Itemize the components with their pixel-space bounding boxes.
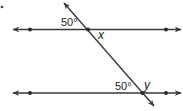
bottom-variable-label: y [143,78,151,92]
top-line-left-point [28,28,32,32]
bottom-angle-label: 50° [115,80,132,92]
parallel-lines-diagram: 50° x 50° y [0,0,183,111]
top-variable-label: x [97,28,105,42]
top-line-right-point [164,28,168,32]
bottom-line-left-point [28,91,32,95]
bottom-line [13,91,181,95]
bottom-line-right-point [164,91,168,95]
top-angle-label: 50° [61,16,78,28]
top-intersection-point [86,28,90,32]
top-line [13,28,181,32]
bullet-dot [1,6,4,9]
